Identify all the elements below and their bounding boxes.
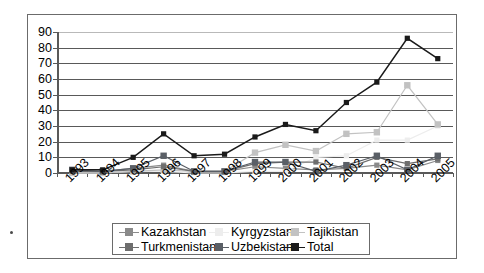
data-point-marker — [252, 149, 258, 155]
y-axis-tick-label: 50 — [26, 89, 52, 101]
y-axis-tick-label: 70 — [26, 57, 52, 69]
data-point-marker — [374, 80, 379, 85]
plot-area — [57, 32, 453, 173]
data-point-marker — [313, 148, 319, 154]
data-point-marker — [313, 155, 318, 160]
legend-marker-icon — [209, 224, 229, 240]
legend-label: Tajikistan — [305, 226, 358, 239]
data-point-marker — [374, 129, 380, 135]
data-point-marker — [404, 82, 410, 88]
y-axis-tick — [53, 157, 57, 158]
data-point-marker — [283, 122, 288, 127]
data-point-marker — [191, 153, 196, 158]
legend-row: KazakhstanKyrgyzstanTajikistan — [113, 224, 369, 240]
y-axis-tick-label: 90 — [26, 26, 52, 38]
chart-figure: 0102030405060708090 19931994199519961997… — [0, 0, 484, 273]
y-axis-tick-label: 80 — [26, 42, 52, 54]
y-axis-tick — [53, 63, 57, 64]
chart-legend: KazakhstanKyrgyzstanTajikistan Turkmenis… — [112, 223, 370, 255]
legend-label: Total — [305, 241, 333, 254]
data-point-marker — [405, 138, 410, 143]
x-axis-tick — [453, 173, 454, 177]
legend-label: Uzbekistan — [229, 241, 293, 254]
y-axis-tick-label: 0 — [26, 167, 52, 179]
y-axis-tick — [53, 95, 57, 96]
legend-marker-icon — [285, 224, 305, 240]
legend-item-kazakhstan: Kazakhstan — [119, 224, 206, 240]
y-axis-tick — [53, 142, 57, 143]
legend-row: TurkmenistanUzbekistanTotal — [113, 239, 369, 255]
y-axis-tick — [53, 110, 57, 111]
y-axis-tick — [53, 173, 57, 174]
legend-marker-icon — [209, 239, 229, 255]
y-axis-tick — [53, 126, 57, 127]
y-axis-tick-label: 40 — [26, 104, 52, 116]
legend-label: Kazakhstan — [139, 226, 206, 239]
legend-marker-icon — [119, 224, 139, 240]
data-point-marker — [313, 128, 318, 133]
y-axis-tick — [53, 48, 57, 49]
legend-marker-icon — [285, 239, 305, 255]
legend-item-uzbekistan: Uzbekistan — [209, 239, 293, 255]
y-axis-tick-label: 60 — [26, 73, 52, 85]
legend-marker-icon — [119, 239, 139, 255]
data-point-marker — [435, 56, 440, 61]
y-axis-tick-label: 30 — [26, 120, 52, 132]
legend-item-total: Total — [285, 239, 333, 255]
y-axis-tick-label: 10 — [26, 151, 52, 163]
data-point-marker — [344, 100, 349, 105]
data-point-marker — [405, 36, 410, 41]
data-point-marker — [374, 138, 379, 143]
y-axis-tick — [53, 79, 57, 80]
legend-item-kyrgyzstan: Kyrgyzstan — [209, 224, 293, 240]
y-axis-tick-labels: 0102030405060708090 — [22, 32, 52, 173]
y-axis-tick — [53, 32, 57, 33]
data-point-marker — [161, 131, 166, 136]
y-axis-tick-label: 20 — [26, 136, 52, 148]
x-axis-tick-labels: 1993199419951996199719981999200020012002… — [57, 176, 453, 220]
data-point-marker — [344, 153, 349, 158]
data-point-marker — [374, 153, 380, 159]
data-point-marker — [131, 155, 136, 160]
data-point-marker — [343, 131, 349, 137]
series-layer — [57, 32, 453, 173]
legend-item-tajikistan: Tajikistan — [285, 224, 358, 240]
data-point-marker — [282, 142, 288, 148]
legend-item-turkmenistan: Turkmenistan — [119, 239, 216, 255]
scan-artifact-speck — [10, 231, 13, 234]
data-point-marker — [435, 153, 441, 159]
data-point-marker — [435, 121, 441, 127]
legend-label: Turkmenistan — [139, 241, 216, 254]
data-point-marker — [160, 153, 166, 159]
data-point-marker — [252, 134, 257, 139]
data-point-marker — [222, 152, 227, 157]
legend-label: Kyrgyzstan — [229, 226, 293, 239]
